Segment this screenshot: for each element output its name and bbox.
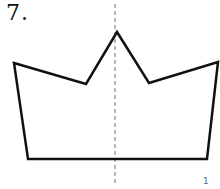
crown-polygon [14,32,218,159]
page-mark: 1 [203,176,209,186]
crown-figure [0,0,220,189]
